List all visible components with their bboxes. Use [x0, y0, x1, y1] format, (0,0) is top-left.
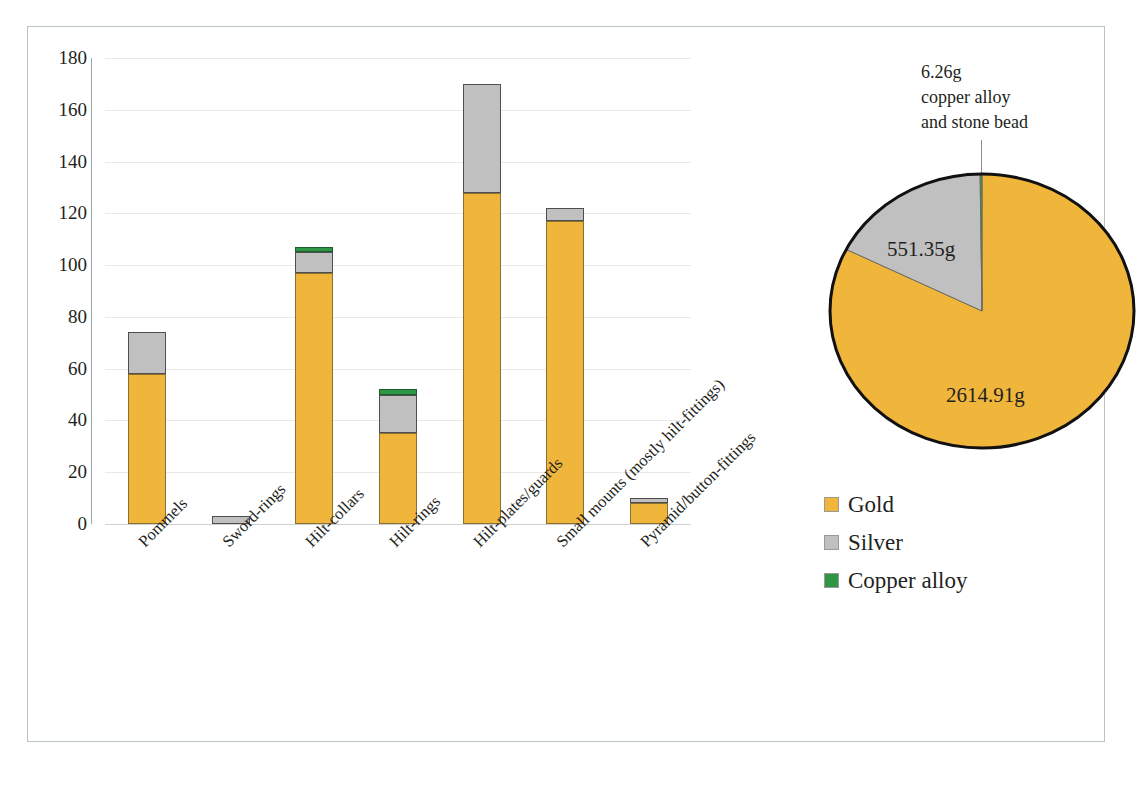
- legend: GoldSilverCopper alloy: [824, 485, 1084, 599]
- y-tick-label-140: 140: [27, 152, 87, 171]
- y-tick-label-180: 180: [27, 48, 87, 67]
- pie-annotation-line-1: 6.26g: [921, 60, 1101, 85]
- pie-annotation-line-3: and stone bead: [921, 110, 1101, 135]
- bars-layer: [105, 58, 691, 524]
- y-axis-line: [91, 58, 92, 524]
- pie-chart: 6.26g copper alloy and stone bead 551.35…: [728, 27, 1106, 743]
- pie-annotation: 6.26g copper alloy and stone bead: [921, 60, 1101, 135]
- legend-swatch-icon: [824, 535, 839, 550]
- bar-segment-copper-alloy[interactable]: [379, 389, 417, 394]
- legend-item-gold[interactable]: Gold: [824, 485, 1084, 523]
- x-axis-category-labels: PommelsSword-ringsHilt-collarsHilt-rings…: [91, 524, 731, 743]
- bar-segment-gold[interactable]: [463, 193, 501, 524]
- legend-item-copper-alloy[interactable]: Copper alloy: [824, 561, 1084, 599]
- y-tick-label-20: 20: [27, 462, 87, 481]
- stacked-bar-chart: 020406080100120140160180 PommelsSword-ri…: [28, 27, 728, 743]
- bar-group[interactable]: [295, 58, 333, 524]
- legend-swatch-icon: [824, 497, 839, 512]
- y-tick-label-120: 120: [27, 203, 87, 222]
- y-tick-label-0: 0: [27, 514, 87, 533]
- bar-segment-gold[interactable]: [295, 273, 333, 524]
- pie-graphic: 551.35g 2614.91g: [827, 171, 1137, 451]
- pie-label-silver: 551.35g: [887, 237, 955, 262]
- pie-svg: [827, 171, 1137, 451]
- legend-item-silver[interactable]: Silver: [824, 523, 1084, 561]
- y-tick-label-40: 40: [27, 410, 87, 429]
- y-tick-label-80: 80: [27, 307, 87, 326]
- bar-segment-silver[interactable]: [546, 208, 584, 221]
- bar-plot-area: 020406080100120140160180: [91, 58, 691, 524]
- bar-segment-copper-alloy[interactable]: [295, 247, 333, 252]
- y-tick-label-160: 160: [27, 100, 87, 119]
- y-tick-label-100: 100: [27, 255, 87, 274]
- bar-segment-silver[interactable]: [128, 332, 166, 373]
- legend-swatch-icon: [824, 573, 839, 588]
- bar-group[interactable]: [212, 58, 250, 524]
- figure-frame: 020406080100120140160180 PommelsSword-ri…: [27, 26, 1105, 742]
- bar-segment-silver[interactable]: [630, 498, 668, 503]
- bar-segment-gold[interactable]: [128, 374, 166, 524]
- legend-label: Silver: [848, 531, 903, 554]
- y-tick-label-60: 60: [27, 359, 87, 378]
- bar-segment-silver[interactable]: [463, 84, 501, 193]
- legend-label: Copper alloy: [848, 569, 967, 592]
- bar-segment-silver[interactable]: [379, 395, 417, 434]
- pie-label-gold: 2614.91g: [946, 383, 1025, 408]
- bar-group[interactable]: [128, 58, 166, 524]
- pie-annotation-line-2: copper alloy: [921, 85, 1101, 110]
- bar-group[interactable]: [463, 58, 501, 524]
- bar-group[interactable]: [379, 58, 417, 524]
- legend-label: Gold: [848, 493, 894, 516]
- bar-segment-silver[interactable]: [295, 252, 333, 273]
